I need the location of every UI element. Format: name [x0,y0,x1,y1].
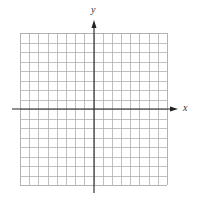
axes [12,20,178,193]
coordinate-plane [0,0,197,199]
y-axis-arrow-icon [92,20,97,28]
x-axis-label: x [183,103,187,113]
x-axis-arrow-icon [170,107,178,112]
y-axis-label: y [91,5,95,15]
